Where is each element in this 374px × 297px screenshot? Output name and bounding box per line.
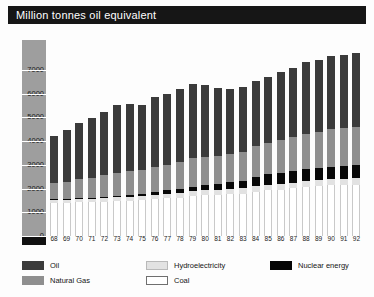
bar-column bbox=[289, 68, 297, 236]
bar-segment-oil bbox=[302, 62, 310, 134]
bar-segment-oil bbox=[214, 88, 222, 156]
x-axis-tick-label: 71 bbox=[86, 235, 98, 243]
x-axis-tick-label: 90 bbox=[325, 235, 337, 243]
legend-swatch-nuc bbox=[270, 261, 292, 270]
bar-segment-coal bbox=[315, 186, 323, 236]
x-axis-tick-label: 80 bbox=[199, 235, 211, 243]
legend-swatch-oil bbox=[22, 261, 44, 270]
bar-column bbox=[315, 60, 323, 236]
bar-segment-nuc bbox=[201, 185, 209, 190]
bar-segment-nuc bbox=[88, 198, 96, 199]
bar-segment-oil bbox=[264, 77, 272, 142]
bar-segment-nuc bbox=[252, 177, 260, 186]
legend-label: Coal bbox=[174, 275, 189, 286]
bar-segment-oil bbox=[315, 60, 323, 132]
bar-segment-oil bbox=[201, 85, 209, 156]
bar-segment-nuc bbox=[151, 192, 159, 195]
bar-segment-nuc bbox=[75, 198, 83, 199]
bar-segment-hyd bbox=[75, 199, 83, 202]
bar-segment-oil bbox=[352, 53, 360, 127]
legend-label: Oil bbox=[50, 260, 59, 271]
bar-segment-nuc bbox=[189, 187, 197, 192]
bar-segment-hyd bbox=[50, 200, 58, 203]
bar-segment-oil bbox=[50, 136, 58, 183]
y-gridline bbox=[22, 212, 46, 213]
bar-segment-gas bbox=[226, 154, 234, 182]
bar-segment-oil bbox=[113, 105, 121, 173]
bar-segment-nuc bbox=[302, 169, 310, 181]
bar-segment-oil bbox=[189, 84, 197, 159]
y-gridline bbox=[22, 94, 46, 95]
x-axis-tick-label: 89 bbox=[313, 235, 325, 243]
bar-segment-oil bbox=[277, 72, 285, 140]
x-axis-tick-label: 77 bbox=[161, 235, 173, 243]
bar-segment-oil bbox=[151, 97, 159, 166]
bar-segment-hyd bbox=[189, 191, 197, 196]
bar-column bbox=[340, 55, 348, 236]
bar-segment-nuc bbox=[277, 173, 285, 184]
bar-segment-gas bbox=[126, 171, 134, 194]
bar-segment-nuc bbox=[352, 165, 360, 178]
x-axis-tick-label: 74 bbox=[124, 235, 136, 243]
bar-segment-gas bbox=[340, 128, 348, 166]
x-axis-tick-label: 86 bbox=[275, 235, 287, 243]
bar-segment-gas bbox=[214, 156, 222, 184]
bar-segment-coal bbox=[340, 185, 348, 236]
bar-segment-hyd bbox=[289, 183, 297, 189]
bar-segment-hyd bbox=[63, 200, 71, 203]
bar-segment-oil bbox=[340, 55, 348, 128]
x-axis-tick-label: 72 bbox=[98, 235, 110, 243]
bar-segment-coal bbox=[302, 187, 310, 236]
x-axis-tick-label: 83 bbox=[237, 235, 249, 243]
bar-column bbox=[302, 62, 310, 236]
bar-segment-nuc bbox=[289, 171, 297, 183]
bar-segment-gas bbox=[113, 173, 121, 196]
bar-segment-nuc bbox=[138, 194, 146, 197]
bar-column bbox=[226, 89, 234, 236]
bar-segment-gas bbox=[315, 132, 323, 168]
x-axis-tick-label: 85 bbox=[262, 235, 274, 243]
bar-segment-hyd bbox=[352, 178, 360, 184]
bar-segment-nuc bbox=[63, 199, 71, 200]
bar-segment-coal bbox=[352, 185, 360, 236]
bar-segment-hyd bbox=[126, 197, 134, 201]
x-axis-tick-label: 79 bbox=[187, 235, 199, 243]
y-gridline bbox=[22, 165, 46, 166]
bar-segment-nuc bbox=[315, 168, 323, 180]
bar-segment-hyd bbox=[264, 185, 272, 190]
legend-label: Hydroelectricity bbox=[174, 260, 225, 271]
bar-column bbox=[113, 105, 121, 236]
bar-column bbox=[189, 84, 197, 236]
bar-segment-hyd bbox=[226, 189, 234, 194]
x-axis-tick-label: 76 bbox=[149, 235, 161, 243]
bar-segment-gas bbox=[252, 146, 260, 177]
bar-segment-hyd bbox=[340, 179, 348, 185]
bar-segment-hyd bbox=[252, 186, 260, 191]
x-axis-tick-label: 69 bbox=[61, 235, 73, 243]
bar-segment-gas bbox=[264, 143, 272, 175]
x-axis-labels: 6869707172737475767778798081828384858687… bbox=[46, 230, 366, 246]
bar-segment-nuc bbox=[327, 167, 335, 180]
bar-column bbox=[63, 130, 71, 236]
bar-segment-hyd bbox=[315, 180, 323, 186]
bar-segment-gas bbox=[327, 129, 335, 166]
x-axis-tick-label: 68 bbox=[48, 235, 60, 243]
chart-title-bar: Million tonnes oil equivalent bbox=[8, 6, 366, 24]
y-axis-labels: 01000200030004000500060007000 bbox=[8, 30, 44, 250]
x-axis-tick-label: 87 bbox=[287, 235, 299, 243]
bar-segment-gas bbox=[352, 127, 360, 165]
y-gridline bbox=[22, 117, 46, 118]
bar-segment-coal bbox=[289, 188, 297, 236]
legend-label: Nuclear energy bbox=[298, 260, 349, 271]
chart-legend: OilNatural GasHydroelectricityCoalNuclea… bbox=[8, 258, 366, 290]
bar-segment-hyd bbox=[201, 190, 209, 195]
bar-segment-oil bbox=[75, 123, 83, 180]
bar-segment-gas bbox=[189, 158, 197, 186]
y-gridline bbox=[22, 70, 46, 71]
chart-page: Million tonnes oil equivalent 0100020003… bbox=[0, 0, 374, 297]
bar-column bbox=[201, 85, 209, 236]
x-axis-tick-label: 81 bbox=[212, 235, 224, 243]
legend-swatch-gas bbox=[22, 276, 44, 285]
x-axis-tick-label: 73 bbox=[111, 235, 123, 243]
x-axis-tick-label: 91 bbox=[338, 235, 350, 243]
